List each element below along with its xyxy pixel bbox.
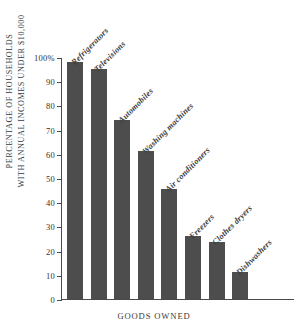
category-label: Freezers <box>187 213 216 242</box>
y-tick-label: 20 <box>46 247 55 257</box>
y-tick-mark <box>57 82 61 83</box>
y-axis-line <box>61 58 62 301</box>
bar <box>209 242 225 299</box>
bar-chart: PERCENTAGE OF HOUSEHOLDS WITH ANNUAL INC… <box>0 0 308 335</box>
y-axis-title: PERCENTAGE OF HOUSEHOLDS WITH ANNUAL INC… <box>4 0 34 206</box>
y-tick-label: 40 <box>46 198 55 208</box>
y-tick-mark <box>57 300 61 301</box>
bar <box>67 62 83 299</box>
y-tick-label: 100% <box>34 53 55 63</box>
y-tick-label: 80 <box>46 101 55 111</box>
y-tick-mark <box>57 252 61 253</box>
y-tick-mark <box>57 276 61 277</box>
bar <box>185 236 201 299</box>
y-axis-title-line-1: PERCENTAGE OF HOUSEHOLDS <box>4 0 16 206</box>
category-label: Automobiles <box>117 86 156 125</box>
bar <box>114 120 130 299</box>
plot-area: 0102030405060708090100% RefrigeratorsTel… <box>61 58 294 300</box>
y-tick-label: 50 <box>46 174 55 184</box>
y-tick-mark <box>57 106 61 107</box>
y-tick-label: 10 <box>46 271 55 281</box>
y-tick-mark <box>57 179 61 180</box>
bar <box>161 189 177 299</box>
y-tick-mark <box>57 227 61 228</box>
y-tick-mark <box>57 131 61 132</box>
category-label: Washing machines <box>140 102 195 157</box>
category-label: Clothes dryers <box>211 204 254 247</box>
y-axis-title-line-2: WITH ANNUAL INCOMES UNDER $10,000 <box>16 0 28 206</box>
y-tick-label: 70 <box>46 126 55 136</box>
y-tick-mark <box>57 155 61 156</box>
y-tick-label: 30 <box>46 222 55 232</box>
y-tick-label: 90 <box>46 77 55 87</box>
y-tick-label: 0 <box>50 295 55 305</box>
x-axis-line <box>61 299 294 300</box>
y-tick-mark <box>57 203 61 204</box>
bar <box>138 151 154 299</box>
y-tick-mark <box>57 58 61 59</box>
y-tick-label: 60 <box>46 150 55 160</box>
x-axis-title: GOODS OWNED <box>0 311 308 321</box>
bar <box>91 69 107 299</box>
category-label: Air conditioners <box>164 146 212 194</box>
category-label: Dishwashers <box>235 238 274 277</box>
